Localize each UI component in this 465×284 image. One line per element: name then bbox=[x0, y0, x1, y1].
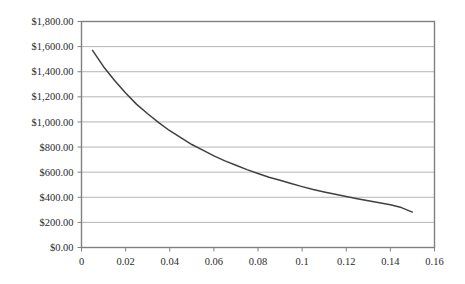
y-tick-label: $800.00 bbox=[39, 142, 73, 153]
y-tick-label: $600.00 bbox=[39, 167, 73, 178]
y-tick-label: $1,000.00 bbox=[32, 117, 74, 128]
x-tick-label: 0.04 bbox=[161, 256, 180, 267]
x-tick-label: 0.08 bbox=[249, 256, 267, 267]
x-tick-label: 0.12 bbox=[337, 256, 355, 267]
y-tick-label: $1,600.00 bbox=[32, 41, 74, 52]
y-tick-label: $1,400.00 bbox=[32, 66, 74, 77]
x-tick-labels-group: 00.020.040.060.080.10.120.140.16 bbox=[79, 256, 444, 267]
x-tick-label: 0.02 bbox=[116, 256, 134, 267]
y-tick-label: $200.00 bbox=[39, 217, 73, 228]
x-tick-label: 0.14 bbox=[381, 256, 400, 267]
chart-page: $0.00$200.00$400.00$600.00$800.00$1,000.… bbox=[0, 0, 465, 284]
x-tick-label: 0.1 bbox=[296, 256, 309, 267]
decay-curve-chart: $0.00$200.00$400.00$600.00$800.00$1,000.… bbox=[0, 0, 465, 284]
y-tick-label: $0.00 bbox=[50, 242, 74, 253]
x-tick-label: 0.06 bbox=[205, 256, 223, 267]
y-tick-label: $1,200.00 bbox=[32, 91, 74, 102]
x-tick-label: 0 bbox=[79, 256, 84, 267]
y-tick-label: $1,800.00 bbox=[32, 16, 74, 27]
x-tick-label: 0.16 bbox=[425, 256, 443, 267]
y-tick-label: $400.00 bbox=[39, 192, 73, 203]
